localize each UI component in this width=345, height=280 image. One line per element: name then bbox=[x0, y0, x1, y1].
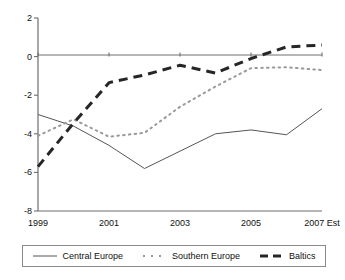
x-tick-label: 2005 bbox=[221, 218, 281, 228]
series-line-southern-europe bbox=[38, 67, 322, 136]
legend-swatch-dashed-icon bbox=[259, 251, 285, 261]
legend-swatch-dotted-icon bbox=[142, 251, 168, 261]
x-tick-label: 2001 bbox=[79, 218, 139, 228]
legend-label-baltics: Baltics bbox=[289, 251, 316, 261]
y-tick-label: -6 bbox=[8, 167, 32, 177]
legend-label-southern-europe: Southern Europe bbox=[172, 251, 240, 261]
legend-item-baltics: Baltics bbox=[259, 251, 316, 261]
legend-swatch-solid-icon bbox=[32, 251, 58, 261]
chart-legend: Central Europe Southern Europe Baltics bbox=[22, 245, 326, 267]
y-tick-label: -2 bbox=[8, 90, 32, 100]
y-tick-label: -8 bbox=[8, 206, 32, 216]
y-tick-label: -4 bbox=[8, 129, 32, 139]
data-series-group bbox=[38, 45, 322, 169]
legend-item-central-europe: Central Europe bbox=[32, 251, 123, 261]
x-tick-label: 1999 bbox=[8, 218, 68, 228]
legend-item-southern-europe: Southern Europe bbox=[142, 251, 240, 261]
x-tick-label: 2007 Est bbox=[292, 218, 345, 228]
y-tick-label: 0 bbox=[8, 52, 32, 62]
legend-label-central-europe: Central Europe bbox=[62, 251, 123, 261]
x-tick-label: 2003 bbox=[150, 218, 210, 228]
series-line-central-europe bbox=[38, 109, 322, 169]
series-line-baltics bbox=[38, 45, 322, 167]
y-tick-label: 2 bbox=[8, 13, 32, 23]
